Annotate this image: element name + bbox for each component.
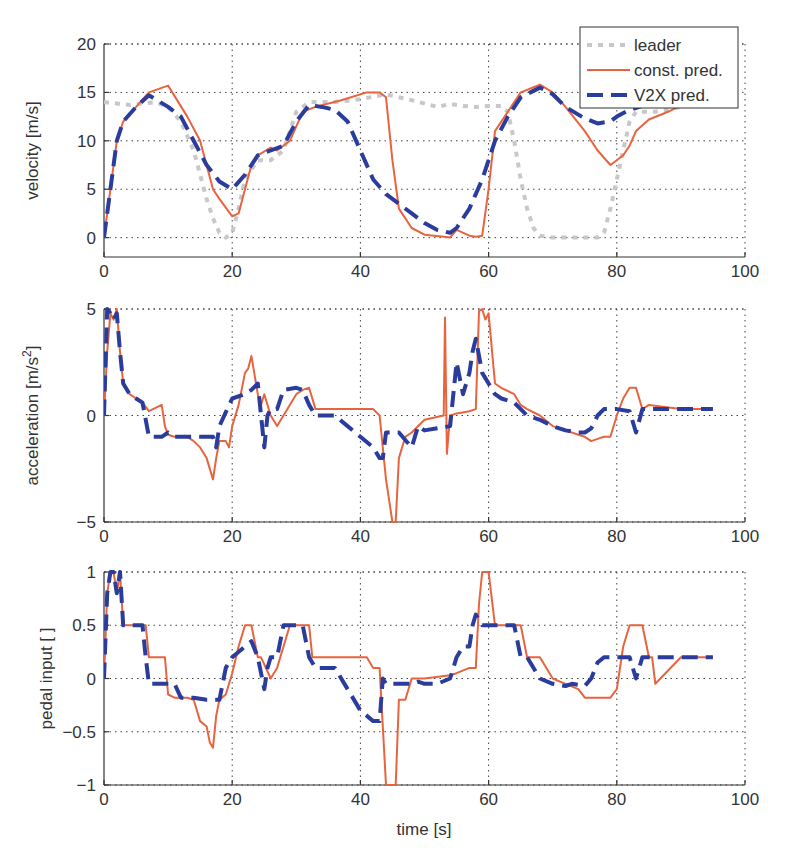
x-tick-label: 60 xyxy=(479,262,498,281)
y-tick-label: −0.5 xyxy=(62,723,96,742)
legend-label: leader xyxy=(634,36,682,55)
y-tick-label: 5 xyxy=(87,300,96,319)
series-v2x-pred-line xyxy=(104,88,713,238)
legend-label: V2X pred. xyxy=(634,86,710,105)
x-tick-label: 20 xyxy=(223,790,242,809)
x-tick-label: 60 xyxy=(479,790,498,809)
x-tick-label: 0 xyxy=(99,262,108,281)
series-v2x-pred-line xyxy=(104,572,713,721)
acceleration-subplot: 020406080100−505acceleration [m/s2] xyxy=(20,300,759,546)
x-axis-label: time [s] xyxy=(397,820,452,839)
x-tick-label: 100 xyxy=(731,527,759,546)
y-tick-label: 0 xyxy=(87,670,96,689)
y-tick-label: −5 xyxy=(77,513,96,532)
y-tick-label: 0 xyxy=(87,229,96,248)
y-tick-label: 20 xyxy=(77,35,96,54)
grid xyxy=(104,309,745,522)
y-tick-label: 15 xyxy=(77,83,96,102)
x-tick-label: 20 xyxy=(223,527,242,546)
y-tick-label: 0.5 xyxy=(72,616,96,635)
x-tick-label: 80 xyxy=(607,527,626,546)
x-tick-label: 0 xyxy=(99,790,108,809)
y-axis-label: pedal input [ ] xyxy=(37,627,56,729)
x-tick-label: 80 xyxy=(607,790,626,809)
x-tick-label: 0 xyxy=(99,527,108,546)
y-tick-label: −1 xyxy=(77,776,96,795)
y-tick-label: 1 xyxy=(87,563,96,582)
y-axis-label: acceleration [m/s2] xyxy=(20,346,42,486)
y-tick-label: 5 xyxy=(87,180,96,199)
y-tick-label: 10 xyxy=(77,132,96,151)
x-tick-label: 60 xyxy=(479,527,498,546)
pedal-input-subplot: 020406080100−1−0.500.51pedal input [ ] xyxy=(37,563,759,809)
y-axis-label: velocity [m/s] xyxy=(23,101,42,199)
figure: 02040608010005101520velocity [m/s] 02040… xyxy=(0,0,795,861)
x-tick-label: 100 xyxy=(731,790,759,809)
x-tick-label: 40 xyxy=(351,262,370,281)
x-tick-label: 40 xyxy=(351,527,370,546)
x-tick-label: 100 xyxy=(731,262,759,281)
y-tick-label: 0 xyxy=(87,407,96,426)
legend: leaderconst. pred.V2X pred. xyxy=(580,27,738,108)
x-tick-label: 80 xyxy=(607,262,626,281)
legend-label: const. pred. xyxy=(634,61,723,80)
x-tick-label: 20 xyxy=(223,262,242,281)
x-tick-label: 40 xyxy=(351,790,370,809)
